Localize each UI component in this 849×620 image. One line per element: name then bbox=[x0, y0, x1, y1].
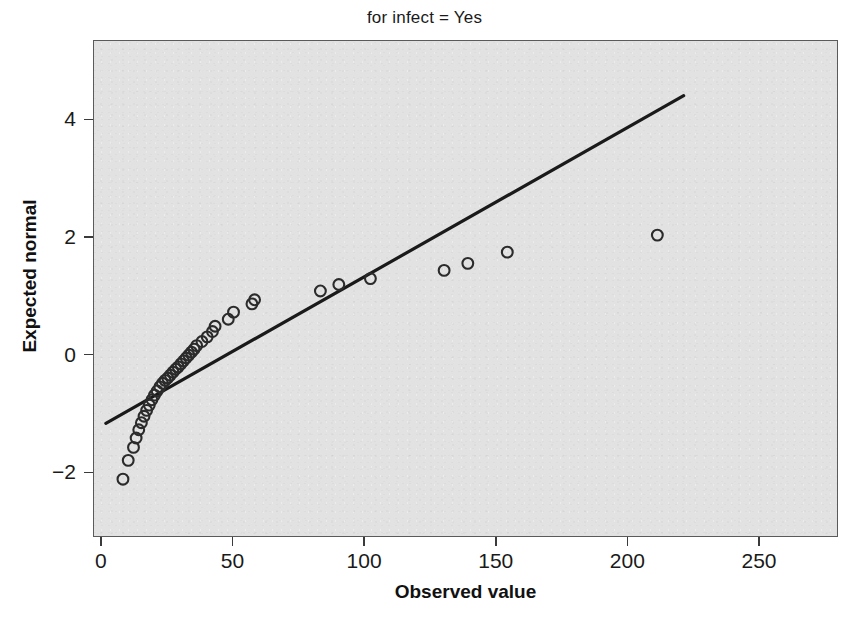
x-tick-mark bbox=[100, 537, 102, 546]
y-axis-title: Expected normal bbox=[19, 126, 41, 426]
data-point bbox=[123, 455, 134, 466]
x-tick-label: 0 bbox=[95, 549, 107, 573]
x-tick-mark bbox=[758, 537, 760, 546]
chart-figure: for infect = Yes 050100150200250 −2024 O… bbox=[0, 0, 849, 620]
x-tick-label: 250 bbox=[741, 549, 776, 573]
y-tick-mark bbox=[84, 236, 93, 238]
x-tick-mark bbox=[627, 537, 629, 546]
y-tick-label: −2 bbox=[30, 460, 76, 484]
data-point bbox=[652, 230, 663, 241]
x-tick-label: 200 bbox=[610, 549, 645, 573]
x-tick-label: 50 bbox=[221, 549, 244, 573]
data-point bbox=[315, 286, 326, 297]
data-point bbox=[333, 279, 344, 290]
reference-line bbox=[106, 96, 684, 424]
plot-canvas bbox=[94, 41, 838, 537]
x-tick-label: 100 bbox=[347, 549, 382, 573]
x-tick-label: 150 bbox=[478, 549, 513, 573]
y-tick-mark bbox=[84, 119, 93, 121]
plot-panel bbox=[93, 40, 838, 537]
y-tick-mark bbox=[84, 472, 93, 474]
data-point bbox=[136, 417, 147, 428]
chart-subtitle: for infect = Yes bbox=[0, 8, 849, 28]
data-point bbox=[439, 265, 450, 276]
data-point bbox=[462, 258, 473, 269]
data-point bbox=[118, 474, 129, 485]
data-point bbox=[502, 247, 513, 258]
x-tick-mark bbox=[363, 537, 365, 546]
x-axis-title: Observed value bbox=[93, 581, 838, 603]
x-tick-mark bbox=[232, 537, 234, 546]
y-tick-mark bbox=[84, 354, 93, 356]
x-tick-mark bbox=[495, 537, 497, 546]
